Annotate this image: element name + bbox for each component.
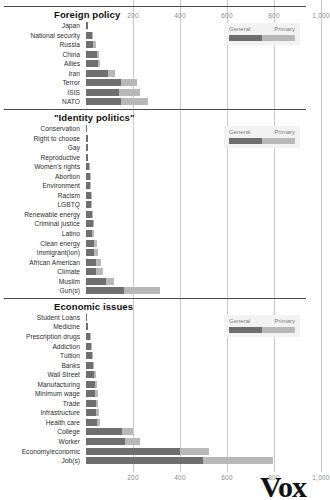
chart-bar-row: Women's rights bbox=[0, 162, 310, 171]
bar-segment-primary bbox=[96, 259, 101, 266]
section-divider bbox=[4, 6, 306, 7]
bar-segment-general bbox=[86, 79, 121, 86]
bar-label: African American bbox=[0, 258, 80, 267]
stacked-bar bbox=[86, 240, 97, 247]
bar-segment-primary bbox=[125, 438, 140, 445]
legend-swatch-primary bbox=[262, 35, 295, 41]
bar-segment-primary bbox=[97, 51, 99, 58]
chart-bar-row: Clean energy bbox=[0, 239, 310, 248]
bar-label: NATO bbox=[0, 97, 80, 106]
chart-bar-row: NATO bbox=[0, 97, 310, 106]
chart-legend: GeneralPrimary bbox=[224, 315, 300, 337]
bar-segment-primary bbox=[94, 240, 97, 247]
bar-label: Prescription drugs bbox=[0, 332, 80, 341]
stacked-bar bbox=[86, 278, 114, 285]
bar-label: Health care bbox=[0, 418, 80, 427]
legend-label-primary: Primary bbox=[274, 318, 295, 324]
bar-label: Student Loans bbox=[0, 313, 80, 322]
bar-segment-general bbox=[86, 249, 94, 256]
bar-label: Economy/economic bbox=[0, 447, 80, 456]
chart-bar-row: Economy/economic bbox=[0, 447, 310, 456]
chart-legend: GeneralPrimary bbox=[224, 23, 300, 45]
stacked-bar bbox=[86, 125, 87, 132]
bar-segment-primary bbox=[96, 400, 98, 407]
stacked-bar bbox=[86, 428, 133, 435]
stacked-bar bbox=[86, 192, 92, 199]
bar-label: National security bbox=[0, 31, 80, 40]
bar-segment-primary bbox=[93, 362, 94, 369]
stacked-bar bbox=[86, 79, 137, 86]
stacked-bar bbox=[86, 287, 160, 294]
bar-label: Immigrant(ion) bbox=[0, 248, 80, 257]
bar-segment-general bbox=[86, 268, 96, 275]
bar-label: Medicine bbox=[0, 322, 80, 331]
chart-bar-row: Racism bbox=[0, 191, 310, 200]
chart-bar-row: Worker bbox=[0, 437, 310, 446]
stacked-bar bbox=[86, 400, 98, 407]
bar-segment-general bbox=[86, 70, 108, 77]
bar-label: Terror bbox=[0, 78, 80, 87]
bar-segment-primary bbox=[180, 448, 209, 455]
bar-segment-general bbox=[86, 419, 97, 426]
bar-segment-general bbox=[86, 390, 95, 397]
bar-segment-primary bbox=[92, 352, 93, 359]
bar-segment-primary bbox=[119, 89, 140, 96]
chart-bar-row: Abortion bbox=[0, 172, 310, 181]
x-tick-label-600: 600 bbox=[221, 474, 232, 481]
bar-segment-primary bbox=[94, 249, 99, 256]
bar-segment-general bbox=[86, 287, 124, 294]
bar-label: Conservation bbox=[0, 124, 80, 133]
bar-label: Gun(s) bbox=[0, 286, 80, 295]
bar-segment-primary bbox=[92, 32, 93, 39]
bar-label: Trade bbox=[0, 399, 80, 408]
stacked-bar bbox=[86, 381, 97, 388]
legend-label-general: General bbox=[229, 129, 250, 135]
section-title: Foreign policy bbox=[54, 9, 120, 20]
bar-segment-primary bbox=[122, 428, 133, 435]
bar-segment-general bbox=[86, 409, 96, 416]
bar-label: College bbox=[0, 427, 80, 436]
section-divider bbox=[4, 298, 306, 299]
bar-label: Iran bbox=[0, 69, 80, 78]
stacked-bar bbox=[86, 230, 94, 237]
bar-segment-primary bbox=[90, 182, 91, 189]
x-tick-label-400: 400 bbox=[174, 474, 185, 481]
bar-segment-primary bbox=[94, 371, 96, 378]
bar-segment-general bbox=[86, 220, 93, 227]
bar-segment-primary bbox=[95, 381, 96, 388]
stacked-bar bbox=[86, 154, 88, 161]
chart-bar-row: Banks bbox=[0, 361, 310, 370]
stacked-bar bbox=[86, 135, 88, 142]
bar-label: Renewable energy bbox=[0, 210, 80, 219]
bar-segment-general bbox=[86, 240, 94, 247]
bar-segment-general bbox=[86, 400, 96, 407]
stacked-bar bbox=[86, 457, 273, 464]
bar-label: China bbox=[0, 50, 80, 59]
bar-label: Infrastructure bbox=[0, 408, 80, 417]
bar-label: Worker bbox=[0, 437, 80, 446]
bar-segment-general bbox=[86, 135, 88, 142]
stacked-bar bbox=[86, 419, 100, 426]
legend-swatch-primary bbox=[262, 138, 295, 144]
bar-label: Wall Street bbox=[0, 370, 80, 379]
bar-label: Women's rights bbox=[0, 162, 80, 171]
bar-segment-general bbox=[86, 314, 87, 321]
chart-bar-row: Addiction bbox=[0, 342, 310, 351]
chart-bar-row: ISIS bbox=[0, 88, 310, 97]
bar-segment-primary bbox=[95, 390, 97, 397]
chart-bar-row: Climate bbox=[0, 267, 310, 276]
bar-label: Job(s) bbox=[0, 456, 80, 465]
chart-bar-row: Minimum wage bbox=[0, 389, 310, 398]
bar-segment-primary bbox=[121, 79, 136, 86]
bar-label: Environment bbox=[0, 181, 80, 190]
stacked-bar bbox=[86, 98, 148, 105]
stacked-bar bbox=[86, 201, 92, 208]
bar-label: Climate bbox=[0, 267, 80, 276]
chart-bar-row: Immigrant(ion) bbox=[0, 248, 310, 257]
bar-segment-primary bbox=[91, 201, 92, 208]
chart-bar-row: College bbox=[0, 427, 310, 436]
bar-label: Racism bbox=[0, 191, 80, 200]
bar-segment-primary bbox=[106, 278, 114, 285]
stacked-bar bbox=[86, 220, 94, 227]
bar-label: LGBTQ bbox=[0, 200, 80, 209]
